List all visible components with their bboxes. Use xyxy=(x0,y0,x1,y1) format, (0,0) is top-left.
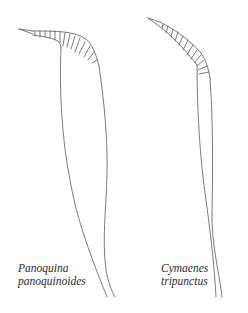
left-antenna xyxy=(19,29,115,297)
specimen-label-right: Cymaenes tripunctus xyxy=(161,262,208,288)
right-antenna xyxy=(148,18,222,297)
species-name: tripunctus xyxy=(161,275,208,288)
specimen-label-left: Panoquina panoquinoides xyxy=(18,262,86,288)
antenna-figure: Panoquina panoquinoides Cymaenes tripunc… xyxy=(0,0,248,313)
genus-name: Cymaenes xyxy=(161,262,208,275)
genus-name: Panoquina xyxy=(18,262,86,275)
species-name: panoquinoides xyxy=(18,275,86,288)
